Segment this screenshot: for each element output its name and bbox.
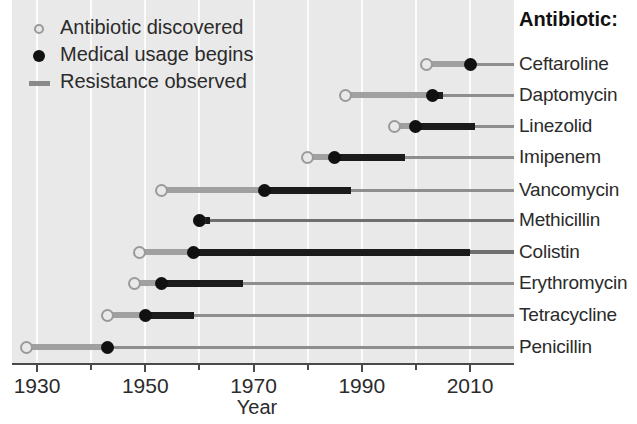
discovered-marker [20, 341, 33, 354]
x-tick-1940 [90, 363, 92, 370]
antibiotic-label-list: CeftarolineDaptomycinLinezolidImipenemVa… [519, 0, 637, 370]
legend: Antibiotic discovered Medical usage begi… [28, 14, 328, 95]
usage-marker [193, 214, 206, 227]
discovered-marker [133, 246, 146, 259]
legend-item-usage: Medical usage begins [28, 41, 328, 68]
line-segment-icon [28, 70, 52, 94]
x-tick-1960 [198, 363, 200, 370]
trailing-line [351, 189, 514, 192]
open-circle-icon [28, 16, 52, 40]
x-tick-1950 [144, 363, 146, 372]
antibiotic-label-colistin: Colistin [519, 241, 580, 263]
x-tick-label-1930: 1930 [14, 374, 61, 398]
trailing-line [210, 219, 514, 222]
antibiotic-label-linezolid: Linezolid [519, 115, 592, 137]
antibiotic-label-methicillin: Methicillin [519, 209, 600, 231]
discovered-marker [388, 120, 401, 133]
x-tick-1970 [253, 363, 255, 372]
trailing-line [475, 125, 514, 128]
trailing-line [194, 314, 514, 317]
resistance-segment [194, 249, 470, 256]
x-tick-1980 [307, 363, 309, 370]
x-tick-1930 [36, 363, 38, 372]
antibiotic-label-tetracycline: Tetracycline [519, 304, 617, 326]
legend-item-resistance: Resistance observed [28, 68, 328, 95]
trailing-line [243, 282, 514, 285]
antibiotic-label-imipenem: Imipenem [519, 146, 601, 168]
usage-marker [139, 309, 152, 322]
legend-item-discovered: Antibiotic discovered [28, 14, 328, 41]
pre-usage-segment [161, 187, 264, 193]
legend-label-discovered: Antibiotic discovered [60, 16, 243, 39]
x-tick-2000 [415, 363, 417, 370]
usage-marker [426, 89, 439, 102]
usage-marker [187, 246, 200, 259]
legend-label-resistance: Resistance observed [60, 70, 247, 93]
antibiotic-label-vancomycin: Vancomycin [519, 179, 619, 201]
usage-marker [101, 341, 114, 354]
usage-marker [258, 184, 271, 197]
filled-circle-icon [28, 43, 52, 67]
resistance-segment [264, 187, 351, 194]
discovered-marker [155, 184, 168, 197]
discovered-marker [339, 89, 352, 102]
usage-marker [155, 277, 168, 290]
antibiotic-label-erythromycin: Erythromycin [519, 272, 627, 294]
gridline-1990 [361, 0, 363, 363]
usage-marker [464, 58, 477, 71]
usage-marker [409, 120, 422, 133]
chart-canvas: 19301950197019902010 Year Antibiotic: Ce… [0, 0, 637, 424]
antibiotic-label-ceftaroline: Ceftaroline [519, 53, 609, 75]
antibiotic-label-penicillin: Penicillin [519, 336, 592, 358]
pre-usage-segment [140, 249, 194, 255]
gridline-2000 [415, 0, 417, 363]
discovered-marker [420, 58, 433, 71]
resistance-segment [335, 154, 405, 161]
usage-marker [328, 151, 341, 164]
x-tick-label-1950: 1950 [122, 374, 169, 398]
discovered-marker [128, 277, 141, 290]
discovered-marker [101, 309, 114, 322]
x-axis-line [12, 363, 514, 365]
discovered-marker [301, 151, 314, 164]
legend-label-usage: Medical usage begins [60, 43, 253, 66]
pre-usage-segment [26, 344, 107, 350]
trailing-line [107, 346, 514, 349]
x-tick-label-2010: 2010 [447, 374, 494, 398]
pre-usage-segment [346, 92, 433, 98]
trailing-line [475, 63, 514, 66]
x-axis-title: Year [0, 396, 514, 419]
gridline-2010 [469, 0, 471, 363]
x-tick-1990 [361, 363, 363, 372]
x-tick-2010 [469, 363, 471, 372]
resistance-segment [416, 123, 476, 130]
trailing-line [443, 94, 514, 97]
x-tick-label-1990: 1990 [338, 374, 385, 398]
trailing-line [405, 156, 514, 159]
x-tick-label-1970: 1970 [230, 374, 277, 398]
antibiotic-label-daptomycin: Daptomycin [519, 84, 617, 106]
resistance-segment [161, 280, 242, 287]
resistance-segment [145, 312, 194, 319]
trailing-line [470, 250, 514, 254]
